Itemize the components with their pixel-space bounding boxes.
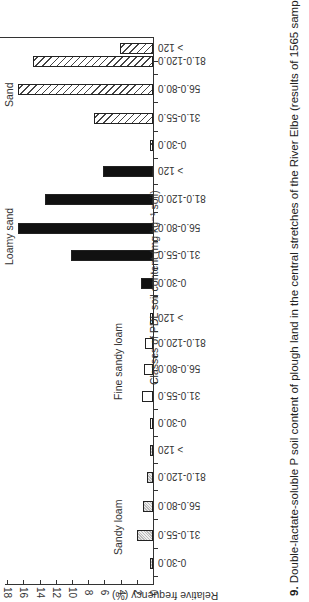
category-label: 31.0-55.0 [158,112,200,123]
value-tick-label: 16 [18,586,29,600]
category-label: 81.0-120.0 [158,337,206,348]
bar-sand-0 [150,140,153,151]
category-label: 56.0-80.0 [158,363,200,374]
category-tick [153,490,158,491]
value-tick [23,580,24,585]
value-tick [88,580,89,585]
value-tick-label: 18 [2,586,13,600]
caption-number: 9. [288,586,300,596]
bar-loamy-sand-3 [45,194,153,205]
bar-sand-2 [18,84,153,95]
value-tick [121,580,122,585]
category-tick [153,436,158,437]
category-label: 31.0-55.0 [158,529,200,540]
value-tick-label: 6 [99,586,110,600]
category-label: > 120 [158,312,183,323]
category-tick [153,548,158,549]
category-label: 81.0-120.0 [158,55,206,66]
category-label: 0-30.0 [158,139,186,150]
category-tick [153,102,158,103]
category-tick [153,74,158,75]
category-label: > 120 [158,165,183,176]
category-label: 81.0-120.0 [158,193,206,204]
value-tick [137,580,138,585]
group-label: Sand [3,82,15,107]
bar-loamy-sand-4 [103,166,153,177]
bar-sandy-loam-0 [150,558,153,569]
category-label: 31.0-55.0 [158,390,200,401]
category-tick [153,184,158,185]
bar-fine-sandy-loam-1 [142,391,153,402]
value-tick-label: 10 [67,586,78,600]
x-axis-title: Classes of PDL soil content (mg kg⁻¹ soi… [148,190,160,385]
bar-sand-3 [33,56,153,67]
category-label: > 120 [158,444,183,455]
top-border-line [0,37,154,38]
category-tick [153,519,158,520]
value-tick-label: 12 [50,586,61,600]
category-tick [153,158,158,159]
bar-sandy-loam-2 [143,501,153,512]
y-axis-title: Relative frequency (%) [112,590,218,602]
group-label: Fine sandy loam [112,323,124,400]
group-label: Sandy loam [112,500,124,555]
category-tick [153,463,158,464]
bar-sandy-loam-4 [150,445,153,456]
chart: 024681012141618 0-30.031.0-55.056.0-80.0… [0,0,309,602]
category-tick [153,576,158,577]
category-tick [153,131,158,132]
bar-sandy-loam-3 [147,472,153,483]
value-tick-label: 8 [83,586,94,600]
value-tick [153,580,154,585]
bar-loamy-sand-2 [18,223,153,234]
category-label: 56.0-80.0 [158,83,200,94]
category-label: 81.0-120.0 [158,471,206,482]
value-tick [104,580,105,585]
category-label: 0-30.0 [158,417,186,428]
category-label: 56.0-80.0 [158,222,200,233]
category-label: 0-30.0 [158,557,186,568]
category-tick [153,409,158,410]
value-tick [72,580,73,585]
category-label: 56.0-80.0 [158,500,200,511]
bar-sandy-loam-1 [137,530,153,541]
group-label: Loamy sand [3,208,15,265]
figure-caption: 9. Double-lactate-soluble P soil content… [288,0,300,596]
bar-sand-4 [120,43,153,54]
bar-fine-sandy-loam-0 [150,418,153,429]
bar-sand-1 [94,113,153,124]
value-tick-label: 14 [34,586,45,600]
bar-loamy-sand-1 [71,250,153,261]
caption-text: Double-lactate-soluble P soil content of… [288,0,300,586]
value-tick [7,580,8,585]
category-label: 0-30.0 [158,277,186,288]
value-tick [56,580,57,585]
category-label: > 120 [158,42,183,53]
category-label: 31.0-55.0 [158,249,200,260]
value-tick [40,580,41,585]
